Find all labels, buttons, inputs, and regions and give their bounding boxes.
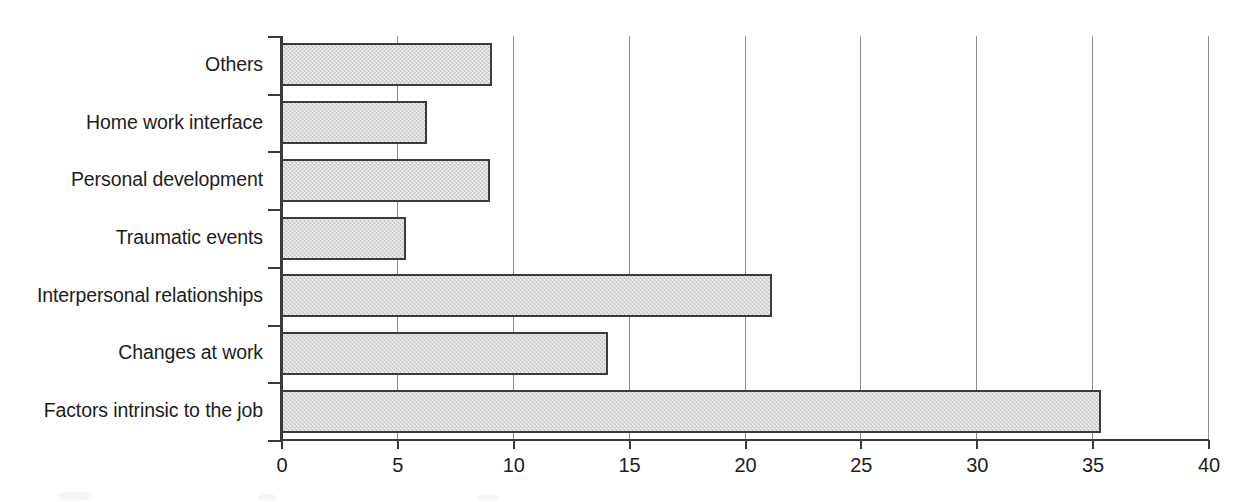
y-axis-tick bbox=[268, 36, 281, 38]
gridline-15 bbox=[629, 36, 630, 440]
bar-chart: OthersHome work interfacePersonal develo… bbox=[0, 0, 1240, 502]
x-axis-tick-label: 35 bbox=[1082, 455, 1104, 475]
y-axis-tick bbox=[268, 94, 281, 96]
scan-artifact bbox=[258, 494, 276, 501]
bar bbox=[281, 332, 608, 375]
x-axis-tick bbox=[745, 440, 747, 449]
x-axis-tick-label: 20 bbox=[734, 455, 756, 475]
x-axis-tick bbox=[1092, 440, 1094, 449]
x-axis-tick-label: 5 bbox=[392, 455, 403, 475]
bar bbox=[281, 159, 490, 202]
plot-area bbox=[281, 36, 1208, 440]
bar bbox=[281, 390, 1101, 433]
y-axis-tick bbox=[268, 267, 281, 269]
x-axis-tick bbox=[397, 440, 399, 449]
category-label: Personal development bbox=[71, 170, 263, 190]
x-axis-tick bbox=[629, 440, 631, 449]
bar bbox=[281, 217, 406, 260]
gridline-10 bbox=[513, 36, 514, 440]
x-axis-tick-label: 15 bbox=[619, 455, 641, 475]
bar bbox=[281, 43, 492, 86]
category-label: Interpersonal relationships bbox=[37, 286, 263, 306]
x-axis-tick bbox=[1208, 440, 1210, 449]
x-axis-tick-label: 30 bbox=[966, 455, 988, 475]
x-axis-tick bbox=[860, 440, 862, 449]
y-axis-tick bbox=[268, 382, 281, 384]
category-label: Traumatic events bbox=[116, 228, 263, 248]
x-axis-tick-label: 0 bbox=[276, 455, 287, 475]
x-axis-tick bbox=[513, 440, 515, 449]
x-axis-tick-label: 25 bbox=[850, 455, 872, 475]
y-axis-line bbox=[280, 36, 282, 440]
category-label: Others bbox=[205, 55, 263, 75]
category-label: Home work interface bbox=[86, 113, 263, 133]
y-axis-tick bbox=[268, 151, 281, 153]
x-axis-tick-label: 40 bbox=[1198, 455, 1220, 475]
gridline-35 bbox=[1092, 36, 1093, 440]
gridline-30 bbox=[976, 36, 977, 440]
y-axis-tick bbox=[268, 440, 281, 442]
y-axis-tick bbox=[268, 325, 281, 327]
gridline-25 bbox=[860, 36, 861, 440]
category-label: Factors intrinsic to the job bbox=[44, 401, 263, 421]
bar bbox=[281, 274, 772, 317]
x-axis-tick-label: 10 bbox=[503, 455, 525, 475]
bar bbox=[281, 101, 427, 144]
category-label: Changes at work bbox=[118, 343, 263, 363]
scan-artifact bbox=[478, 495, 498, 501]
x-axis-tick bbox=[976, 440, 978, 449]
gridline-20 bbox=[745, 36, 746, 440]
x-axis-tick bbox=[281, 440, 283, 449]
scan-artifact bbox=[58, 492, 92, 501]
gridline-40 bbox=[1208, 36, 1209, 440]
y-axis-tick bbox=[268, 209, 281, 211]
